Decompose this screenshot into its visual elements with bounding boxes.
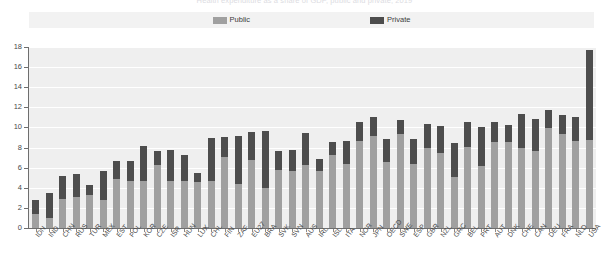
bar-nzl[interactable] <box>437 126 444 228</box>
bar-kor[interactable] <box>140 146 147 228</box>
y-axis-tick-label: 0 <box>0 224 22 232</box>
bar-segment-private <box>113 161 120 179</box>
y-axis-tick <box>24 228 28 229</box>
bar-segment-public <box>302 165 309 228</box>
bar-segment-private <box>208 138 215 181</box>
bar-segment-public <box>586 140 593 228</box>
bar-eu27[interactable] <box>248 132 255 228</box>
bar-esp[interactable] <box>410 139 417 228</box>
y-axis-tick-label: 4 <box>0 184 22 192</box>
bar-segment-private <box>545 110 552 128</box>
bar-segment-private <box>262 131 269 187</box>
bar-svk[interactable] <box>275 151 282 228</box>
bar-aus[interactable] <box>302 133 309 228</box>
y-axis-tick-label: 14 <box>0 83 22 91</box>
bar-pol[interactable] <box>127 161 134 228</box>
bar-aut[interactable] <box>491 122 498 228</box>
bar-tur[interactable] <box>86 185 93 228</box>
bar-segment-private <box>100 171 107 200</box>
bar-fra[interactable] <box>559 115 566 228</box>
bar-segment-private <box>86 185 93 195</box>
bar-segment-public <box>86 195 93 228</box>
y-axis-tick-label: 10 <box>0 123 22 131</box>
bar-isr[interactable] <box>167 150 174 228</box>
bar-nor[interactable] <box>356 122 363 228</box>
bar-segment-private <box>343 141 350 164</box>
y-axis-tick <box>24 127 28 128</box>
bar-bra[interactable] <box>262 131 269 228</box>
bar-segment-private <box>451 143 458 177</box>
y-axis-tick-label: 8 <box>0 144 22 152</box>
bar-gbr[interactable] <box>424 124 431 228</box>
bar-segment-private <box>424 124 431 147</box>
legend-item-public[interactable]: Public <box>213 16 250 24</box>
bar-segment-private <box>248 132 255 159</box>
y-axis-tick-label: 2 <box>0 204 22 212</box>
bar-segment-private <box>464 122 471 146</box>
legend-swatch-public-icon <box>213 17 227 24</box>
bar-lux[interactable] <box>194 173 201 228</box>
bar-segment-private <box>127 161 134 181</box>
bar-irl[interactable] <box>316 159 323 228</box>
bar-est[interactable] <box>113 161 120 228</box>
bar-dnk[interactable] <box>505 125 512 228</box>
bar-segment-private <box>370 117 377 135</box>
bar-segment-public <box>491 142 498 228</box>
bar-segment-public <box>316 171 323 228</box>
bar-segment-private <box>154 151 161 165</box>
bar-segment-public <box>59 199 66 228</box>
legend-label-public: Public <box>230 16 250 24</box>
y-axis-labels: 024681012141618 <box>0 0 22 269</box>
y-axis-tick <box>24 67 28 68</box>
bar-segment-public <box>451 177 458 228</box>
bar-prt[interactable] <box>478 127 485 228</box>
bar-can[interactable] <box>532 119 539 228</box>
bar-segment-private <box>235 136 242 184</box>
page-title: Health expenditure as a share of GDP, pu… <box>0 0 609 5</box>
bar-oecd[interactable] <box>383 139 390 228</box>
bar-segment-public <box>221 157 228 228</box>
bar-segment-private <box>73 174 80 197</box>
bar-segment-public <box>383 162 390 228</box>
health-expenditure-chart: Health expenditure as a share of GDP, pu… <box>0 0 609 269</box>
bar-segment-private <box>167 150 174 181</box>
bar-segment-private <box>586 50 593 139</box>
bar-ind[interactable] <box>46 193 53 228</box>
legend-item-private[interactable]: Private <box>370 16 410 24</box>
bar-svn[interactable] <box>289 150 296 228</box>
bar-segment-private <box>518 114 525 147</box>
bar-swe[interactable] <box>397 120 404 228</box>
bar-nld[interactable] <box>572 117 579 228</box>
bar-usa[interactable] <box>586 50 593 228</box>
bar-segment-private <box>32 200 39 214</box>
bar-jpn[interactable] <box>370 117 377 228</box>
bar-fin[interactable] <box>221 137 228 229</box>
bar-segment-public <box>424 148 431 228</box>
bar-chn[interactable] <box>59 176 66 228</box>
bar-chl[interactable] <box>208 138 215 229</box>
bar-segment-public <box>154 165 161 228</box>
bar-cze[interactable] <box>154 151 161 228</box>
bar-rus[interactable] <box>73 174 80 228</box>
chart-title-strip: Health expenditure as a share of GDP, pu… <box>0 0 609 11</box>
bar-segment-public <box>248 160 255 228</box>
bar-isl[interactable] <box>329 142 336 228</box>
bar-deu[interactable] <box>545 110 552 228</box>
bar-che[interactable] <box>518 114 525 228</box>
bar-segment-public <box>437 153 444 228</box>
bar-ita[interactable] <box>343 141 350 228</box>
plot-area <box>29 47 596 228</box>
bar-segment-private <box>397 120 404 134</box>
bar-grc[interactable] <box>451 143 458 228</box>
bar-zaf[interactable] <box>235 136 242 229</box>
y-axis-tick <box>24 47 28 48</box>
bar-idn[interactable] <box>32 200 39 228</box>
bar-hun[interactable] <box>181 155 188 228</box>
bar-mex[interactable] <box>100 171 107 228</box>
bar-bel[interactable] <box>464 122 471 228</box>
y-axis-tick <box>24 148 28 149</box>
bar-segment-private <box>194 173 201 182</box>
y-axis-tick <box>24 188 28 189</box>
y-axis-tick-label: 6 <box>0 164 22 172</box>
bar-segment-public <box>235 184 242 228</box>
